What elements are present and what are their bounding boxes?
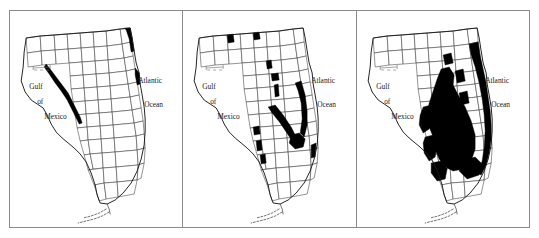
map-panel-3[interactable]: Gulf of Mexico Atlantic Ocean (356, 11, 529, 227)
atlantic-label-line1: Atlantic (485, 76, 510, 85)
florida-map-1: Gulf of Mexico Atlantic Ocean (10, 11, 182, 227)
gulf-label-line1: Gulf (29, 82, 43, 91)
gulf-label-line2: of (210, 97, 217, 106)
gulf-label-line2: of (37, 97, 44, 106)
florida-map-2: Gulf of Mexico Atlantic Ocean (183, 11, 355, 227)
gulf-label-line1: Gulf (202, 82, 216, 91)
map-panel-2[interactable]: Gulf of Mexico Atlantic Ocean (182, 11, 355, 227)
atlantic-label-line2: Ocean (317, 100, 336, 109)
florida-map-3: Gulf of Mexico Atlantic Ocean (357, 11, 529, 227)
gulf-label-line2: of (384, 97, 391, 106)
figure-frame: Gulf of Mexico Atlantic Ocean (9, 10, 530, 228)
gulf-label-line3: Mexico (391, 112, 414, 121)
gulf-label-line3: Mexico (217, 112, 240, 121)
atlantic-label-line1: Atlantic (138, 76, 163, 85)
atlantic-label-line2: Ocean (491, 100, 510, 109)
map-panel-1[interactable]: Gulf of Mexico Atlantic Ocean (10, 11, 182, 227)
gulf-label-line1: Gulf (376, 82, 390, 91)
atlantic-label-line2: Ocean (144, 100, 163, 109)
atlantic-label-line1: Atlantic (311, 76, 336, 85)
figure-root: Gulf of Mexico Atlantic Ocean (0, 0, 539, 238)
gulf-label-line3: Mexico (44, 112, 67, 121)
